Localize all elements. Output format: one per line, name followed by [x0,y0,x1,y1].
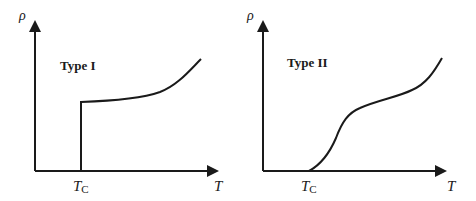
panel-type-2: ρ Type II TC T [246,8,457,195]
y-axis-arrow-icon [29,20,41,32]
resistivity-diagram: ρ Type I TC T ρ Type II TC T [0,0,476,201]
tc-label: TC [301,178,317,195]
panel-title: Type I [60,58,96,73]
x-axis-arrow-icon [435,165,447,177]
resistivity-curve-type-1 [81,59,201,171]
x-axis-label: T [214,178,224,194]
panel-type-1: ρ Type I TC T [18,8,224,195]
x-axis-arrow-icon [207,165,219,177]
y-axis-label: ρ [18,8,26,23]
tc-label: TC [73,178,89,195]
x-axis-label: T [447,178,457,194]
panel-title: Type II [287,55,328,70]
resistivity-curve-type-2 [309,58,442,171]
y-axis-label: ρ [246,8,254,23]
y-axis-arrow-icon [257,20,269,32]
